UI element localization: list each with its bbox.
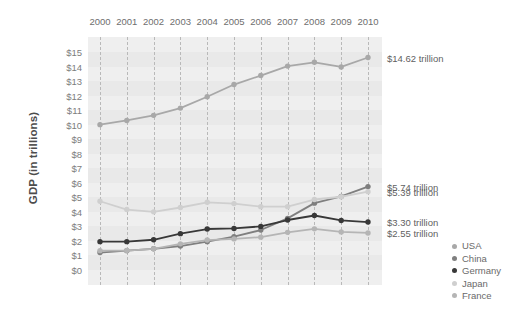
data-point bbox=[178, 205, 183, 210]
x-tick-label: 2003 bbox=[170, 16, 191, 27]
data-point bbox=[151, 113, 156, 118]
y-tick-label: $0 bbox=[71, 265, 82, 276]
y-tick-label: $3 bbox=[71, 221, 82, 232]
data-point bbox=[231, 82, 236, 87]
y-tick-label: $1 bbox=[71, 250, 82, 261]
legend-label: USA bbox=[462, 241, 482, 251]
data-point bbox=[97, 199, 102, 204]
data-point bbox=[365, 189, 370, 194]
x-tick-label: 2004 bbox=[197, 16, 218, 27]
legend-item-japan[interactable]: Japan bbox=[452, 277, 522, 289]
data-point bbox=[339, 218, 344, 223]
data-point bbox=[339, 194, 344, 199]
y-axis-tick-labels: $15$14$13$12$11$10$9$8$7$6$5$4$3$2$1$0 bbox=[0, 0, 88, 318]
data-point bbox=[365, 184, 370, 189]
legend: USAChinaGermanyJapanFrance bbox=[452, 240, 522, 302]
data-point bbox=[151, 237, 156, 242]
y-tick-label: $11 bbox=[67, 105, 82, 116]
annotation-france: $2.55 trillion bbox=[387, 227, 438, 238]
y-tick-label: $10 bbox=[66, 119, 82, 130]
legend-label: Japan bbox=[462, 279, 488, 289]
x-tick-label: 2001 bbox=[116, 16, 137, 27]
legend-item-france[interactable]: France bbox=[452, 290, 522, 302]
series-lines bbox=[88, 37, 382, 285]
data-point bbox=[339, 229, 344, 234]
data-point bbox=[312, 226, 317, 231]
data-point bbox=[205, 226, 210, 231]
y-tick-label: $8 bbox=[71, 148, 82, 159]
data-point bbox=[258, 204, 263, 209]
y-tick-label: $9 bbox=[71, 134, 82, 145]
legend-swatch-icon bbox=[452, 256, 457, 261]
y-tick-label: $5 bbox=[71, 192, 82, 203]
data-point bbox=[231, 236, 236, 241]
y-tick-label: $15 bbox=[66, 47, 82, 58]
y-tick-label: $2 bbox=[71, 235, 82, 246]
y-tick-label: $4 bbox=[71, 206, 82, 217]
legend-label: Germany bbox=[462, 266, 501, 276]
annotation-usa: $14.62 trillion bbox=[387, 52, 444, 63]
y-tick-label: $6 bbox=[71, 177, 82, 188]
data-point bbox=[231, 201, 236, 206]
x-tick-label: 2008 bbox=[304, 16, 325, 27]
data-point bbox=[124, 248, 129, 253]
x-tick-label: 2009 bbox=[331, 16, 352, 27]
data-point bbox=[124, 239, 129, 244]
data-point bbox=[205, 94, 210, 99]
data-point bbox=[205, 200, 210, 205]
x-tick-label: 2006 bbox=[250, 16, 271, 27]
data-point bbox=[365, 219, 370, 224]
x-tick-label: 2002 bbox=[143, 16, 164, 27]
annotation-japan: $5.39 trillion bbox=[387, 186, 438, 197]
data-point bbox=[285, 63, 290, 68]
legend-item-china[interactable]: China bbox=[452, 252, 522, 264]
data-point bbox=[97, 239, 102, 244]
data-point bbox=[285, 217, 290, 222]
y-tick-label: $7 bbox=[71, 163, 82, 174]
data-point bbox=[258, 224, 263, 229]
data-point bbox=[339, 64, 344, 69]
data-point bbox=[285, 230, 290, 235]
data-point bbox=[365, 55, 370, 60]
data-point bbox=[365, 230, 370, 235]
x-axis-tick-labels: 2000200120022003200420052006200720082009… bbox=[0, 0, 524, 40]
data-point bbox=[312, 197, 317, 202]
y-tick-label: $13 bbox=[66, 76, 82, 87]
data-point bbox=[124, 207, 129, 212]
x-tick-label: 2010 bbox=[357, 16, 378, 27]
data-point bbox=[205, 237, 210, 242]
data-point bbox=[258, 73, 263, 78]
gdp-line-chart: GDP (in trillions) $15$14$13$12$11$10$9$… bbox=[0, 0, 524, 318]
data-point bbox=[151, 209, 156, 214]
data-point bbox=[231, 226, 236, 231]
x-tick-label: 2005 bbox=[223, 16, 244, 27]
legend-swatch-icon bbox=[452, 281, 457, 286]
x-tick-label: 2007 bbox=[277, 16, 298, 27]
data-point bbox=[178, 231, 183, 236]
x-tick-label: 2000 bbox=[89, 16, 110, 27]
legend-swatch-icon bbox=[452, 244, 457, 249]
series-line-usa bbox=[100, 58, 368, 125]
data-point bbox=[285, 204, 290, 209]
legend-swatch-icon bbox=[452, 268, 457, 273]
data-point bbox=[178, 241, 183, 246]
legend-swatch-icon bbox=[452, 293, 457, 298]
data-point bbox=[151, 246, 156, 251]
legend-label: France bbox=[462, 291, 492, 301]
legend-item-germany[interactable]: Germany bbox=[452, 265, 522, 277]
data-point bbox=[312, 213, 317, 218]
legend-item-usa[interactable]: USA bbox=[452, 240, 522, 252]
y-tick-label: $12 bbox=[66, 90, 82, 101]
data-point bbox=[97, 248, 102, 253]
legend-label: China bbox=[462, 254, 487, 264]
data-point bbox=[178, 105, 183, 110]
data-point bbox=[312, 60, 317, 65]
data-point bbox=[258, 234, 263, 239]
annotation-germany: $3.30 trillion bbox=[387, 217, 438, 228]
y-tick-label: $14 bbox=[66, 61, 82, 72]
data-point bbox=[124, 118, 129, 123]
series-line-china bbox=[100, 187, 368, 253]
plot-area bbox=[88, 37, 382, 285]
data-point bbox=[97, 122, 102, 127]
